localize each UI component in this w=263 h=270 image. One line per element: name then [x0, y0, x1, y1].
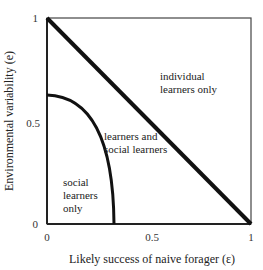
- region-label-social-line3: only: [63, 202, 83, 214]
- x-axis-label: Likely success of naive forager (ε): [69, 252, 235, 266]
- region-label-individual-line2: learners only: [160, 83, 218, 95]
- y-axis-label: Environmental variability (e): [2, 51, 16, 191]
- x-tick-1: 1: [248, 231, 254, 243]
- phase-diagram: 1 0.5 0 0 0.5 1 Likely success of naive …: [0, 0, 263, 270]
- y-tick-0: 0: [33, 218, 39, 230]
- x-tick-0.5: 0.5: [145, 231, 159, 243]
- region-label-social-line1: social: [63, 176, 89, 188]
- region-label-social-line2: learners: [63, 189, 98, 201]
- region-label-mixed-line2: social learners: [104, 143, 167, 155]
- region-label-mixed-line1: learners and: [104, 130, 158, 142]
- y-tick-0.5: 0.5: [26, 117, 40, 129]
- x-tick-0: 0: [44, 231, 50, 243]
- region-label-individual-line1: individual: [160, 70, 205, 82]
- y-tick-1: 1: [33, 12, 39, 24]
